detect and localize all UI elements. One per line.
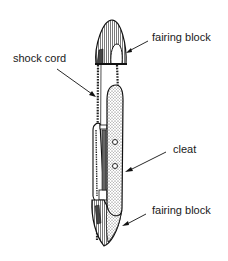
label-bottom-fairing-block: fairing block [152,205,211,216]
top-fairing-block [95,20,127,64]
cleat [107,85,123,217]
cleat-back-plate [93,123,107,202]
label-shock-cord: shock cord [13,53,66,64]
label-top-fairing-block: fairing block [152,32,211,43]
label-cleat: cleat [173,144,196,155]
